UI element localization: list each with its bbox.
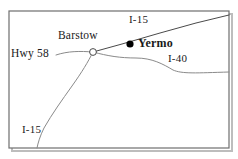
map-canvas [0, 0, 238, 159]
map-frame-border [9, 11, 229, 148]
label-yermo: Yermo [138, 37, 173, 49]
label-barstow: Barstow [58, 30, 98, 42]
label-i15-south: I-15 [22, 124, 41, 135]
label-i15-north: I-15 [129, 14, 148, 25]
barstow-junction-marker [90, 49, 97, 56]
label-i40: I-40 [168, 53, 187, 64]
map-figure: Barstow Hwy 58 I-15 I-15 I-40 Yermo [0, 0, 238, 159]
yermo-city-marker [126, 40, 133, 47]
label-hwy-58: Hwy 58 [11, 48, 49, 60]
